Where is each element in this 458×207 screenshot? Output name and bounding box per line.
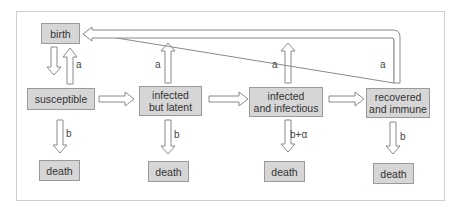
node-label: death bbox=[380, 168, 406, 180]
node-label: death bbox=[271, 166, 297, 178]
node-label: but latent bbox=[149, 101, 192, 113]
node-label: death bbox=[46, 165, 72, 177]
node-birth: birth bbox=[41, 23, 80, 44]
node-recovered-immune: recovered and immune bbox=[366, 88, 430, 118]
rate-label: a bbox=[76, 59, 82, 70]
rate-label: a bbox=[380, 59, 386, 70]
node-label: recovered bbox=[375, 91, 422, 103]
node-label: death bbox=[155, 166, 181, 178]
rate-label: b bbox=[66, 128, 72, 139]
rate-label: b bbox=[174, 129, 180, 140]
rate-label: a bbox=[155, 59, 161, 70]
node-death-4: death bbox=[373, 163, 414, 184]
node-label: infected bbox=[152, 89, 189, 101]
node-death-3: death bbox=[264, 161, 305, 182]
node-infected-infectious: infected and infectious bbox=[249, 87, 323, 117]
node-death-1: death bbox=[39, 160, 80, 181]
rate-label: b bbox=[400, 131, 406, 142]
node-label: infected bbox=[268, 90, 305, 102]
node-label: and infectious bbox=[254, 102, 319, 114]
node-infected-latent: infected but latent bbox=[139, 86, 202, 116]
node-label: and immune bbox=[369, 103, 427, 115]
node-label: susceptible bbox=[35, 93, 88, 105]
rate-label: b+α bbox=[290, 129, 307, 140]
node-susceptible: susceptible bbox=[27, 88, 95, 110]
node-death-2: death bbox=[148, 161, 189, 182]
node-label: birth bbox=[50, 28, 70, 40]
rate-label: a bbox=[272, 59, 278, 70]
